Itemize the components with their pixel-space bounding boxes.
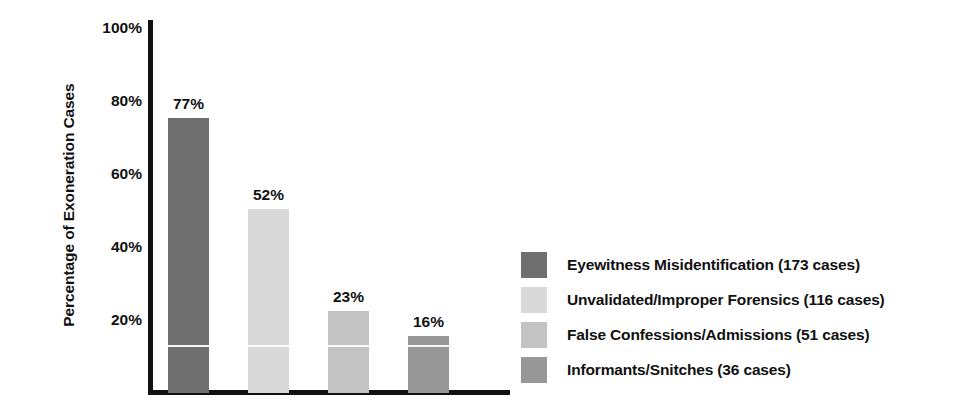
legend-item-label: Unvalidated/Improper Forensics (116 case…: [567, 291, 885, 309]
legend-item-label: Eyewitness Misidentification (173 cases): [567, 256, 860, 274]
chart-legend: Eyewitness Misidentification (173 cases)…: [521, 247, 971, 387]
bar-value-label: 16%: [413, 314, 444, 330]
legend-swatch-icon: [521, 252, 547, 278]
bar-rect: [168, 118, 209, 393]
bar-eyewitness-misidentification[interactable]: 77%: [168, 118, 209, 393]
bar-base-gridline: [328, 345, 369, 347]
bar-value-label: 77%: [173, 96, 204, 112]
bar-base-gridline: [168, 345, 209, 347]
bar-rect: [248, 209, 289, 393]
bar-value-label: 23%: [333, 289, 364, 305]
legend-item-false-confessions-admissions[interactable]: False Confessions/Admissions (51 cases): [521, 317, 971, 352]
legend-swatch-icon: [521, 322, 547, 348]
bar-rect: [328, 311, 369, 393]
bar-base-gridline: [408, 345, 449, 347]
bar-value-label: 52%: [253, 187, 284, 203]
bar-informants-snitches[interactable]: 16%: [408, 336, 449, 393]
bar-unvalidated-improper-forensics[interactable]: 52%: [248, 209, 289, 393]
bar-false-confessions-admissions[interactable]: 23%: [328, 311, 369, 393]
legend-item-informants-snitches[interactable]: Informants/Snitches (36 cases): [521, 352, 971, 387]
legend-item-unvalidated-improper-forensics[interactable]: Unvalidated/Improper Forensics (116 case…: [521, 282, 971, 317]
legend-swatch-icon: [521, 287, 547, 313]
bar-base-gridline: [248, 345, 289, 347]
bar-chart-figure: Percentage of Exoneration Cases 100% 80%…: [0, 0, 978, 420]
legend-swatch-icon: [521, 357, 547, 383]
legend-item-label: Informants/Snitches (36 cases): [567, 361, 791, 379]
legend-item-label: False Confessions/Admissions (51 cases): [567, 326, 870, 344]
legend-item-eyewitness-misidentification[interactable]: Eyewitness Misidentification (173 cases): [521, 247, 971, 282]
